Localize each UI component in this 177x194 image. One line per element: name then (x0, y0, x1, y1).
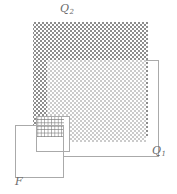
label-q2-base: Q (60, 2, 69, 15)
f-q2-intersection (36, 116, 64, 137)
label-q2: Q2 (60, 3, 74, 14)
figure-canvas (0, 0, 177, 194)
label-f-base: F (15, 175, 23, 188)
label-q2-subscript: 2 (70, 8, 74, 16)
figure-container: Q2 Q1 F (0, 0, 177, 194)
label-q1-base: Q (152, 144, 161, 157)
label-f: F (15, 176, 23, 187)
label-q1-subscript: 1 (162, 150, 166, 158)
label-q1: Q1 (152, 145, 166, 156)
